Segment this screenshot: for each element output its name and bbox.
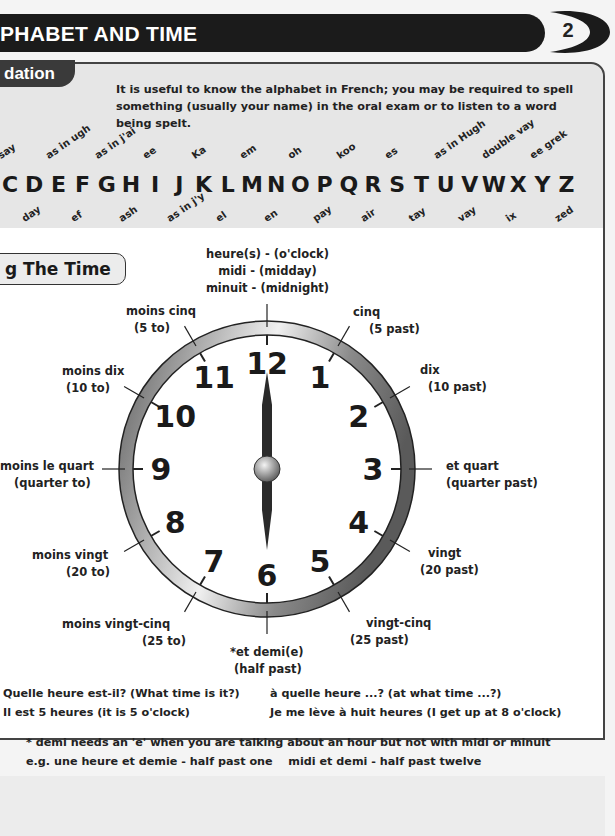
alphabet-letter: Z	[559, 172, 575, 197]
alphabet-letter: C	[2, 172, 18, 197]
clock-number: 2	[348, 399, 369, 434]
label-moins-le-quart: moins le quart (quarter to)	[0, 458, 94, 492]
page-number: 2	[553, 19, 583, 42]
alphabet-letter: X	[510, 172, 527, 197]
clock-number: 8	[165, 505, 186, 540]
clock-number: 7	[204, 544, 225, 579]
alphabet-letter: J	[175, 172, 183, 197]
label-moins-vingt: moins vingt (20 to)	[32, 547, 110, 581]
clock-number: 6	[257, 558, 278, 593]
phrase-at-what-time: à quelle heure ...? (at what time ...?)	[270, 684, 501, 703]
label-moins-cinq: moins cinq (5 to)	[126, 303, 196, 337]
alphabet-letter: F	[75, 172, 90, 197]
label-moins-dix: moins dix (10 to)	[62, 363, 124, 397]
label-dix: dix (10 past)	[420, 362, 487, 396]
alphabet-letter: Y	[534, 172, 550, 197]
label-vingt-cinq: vingt-cinq (25 past)	[350, 615, 431, 649]
alphabet-intro-text: It is useful to know the alphabet in Fre…	[116, 81, 586, 132]
demi-example: e.g. une heure et demie - half past one …	[26, 752, 586, 771]
alphabet-letter: D	[25, 172, 43, 197]
alphabet-letter: P	[317, 172, 333, 197]
alphabet-letter: G	[98, 172, 116, 197]
label-et-demi: *et demi(e) (half past)	[230, 644, 304, 678]
alphabet-letter: V	[461, 172, 478, 197]
label-vingt: vingt (20 past)	[420, 545, 479, 579]
alphabet-letter: U	[437, 172, 455, 197]
alphabet-section-tab: dation	[0, 60, 75, 87]
alphabet-letter: O	[291, 172, 310, 197]
clock-number: 5	[310, 544, 331, 579]
alphabet-letter: M	[241, 172, 263, 197]
label-oclock: heure(s) - (o'clock) midi - (midday) min…	[205, 246, 330, 297]
alphabet-letter: L	[221, 172, 235, 197]
phrase-it-is: Il est 5 heures (it is 5 o'clock)	[3, 703, 190, 722]
phrase-what-time: Quelle heure est-il? (What time is it?)	[3, 684, 240, 703]
clock-number: 1	[310, 360, 331, 395]
alphabet-letter: H	[122, 172, 140, 197]
alphabet-letter: R	[365, 172, 382, 197]
alphabet-letter: W	[482, 172, 506, 197]
label-cinq: cinq (5 past)	[353, 304, 420, 338]
alphabet-letter: E	[51, 172, 66, 197]
page-title: PHABET AND TIME	[0, 19, 197, 49]
alphabet-letter: I	[151, 172, 159, 197]
alphabet-letter: K	[195, 172, 212, 197]
alphabet-letter: S	[389, 172, 405, 197]
label-moins-vingt-cinq: moins vingt-cinq (25 to)	[62, 616, 186, 650]
clock-number: 9	[151, 452, 172, 487]
alphabet-letter: Q	[339, 172, 358, 197]
clock-number: 4	[348, 505, 369, 540]
clock-number: 11	[193, 360, 235, 395]
alphabet-letter: T	[414, 172, 429, 197]
clock-number: 10	[154, 399, 196, 434]
clock-number: 3	[363, 452, 384, 487]
alphabet-letter: N	[267, 172, 285, 197]
label-et-quart: et quart (quarter past)	[446, 458, 538, 492]
phrase-i-get-up: Je me lève à huit heures (I get up at 8 …	[270, 703, 561, 722]
footer-strip	[0, 776, 605, 836]
demi-note: * demi needs an 'e' when you are talking…	[26, 733, 586, 752]
